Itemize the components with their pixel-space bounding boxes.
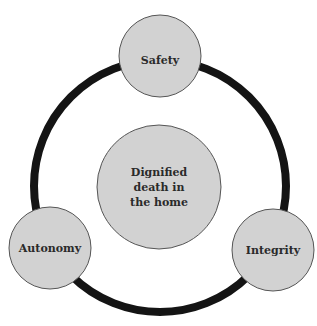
center-label-line-1: Dignified [131, 166, 188, 179]
node-autonomy-label: Autonomy [18, 242, 82, 255]
node-safety-label: Safety [141, 54, 180, 67]
node-autonomy: Autonomy [9, 207, 91, 289]
cycle-diagram: Dignified death in the home Safety Auton… [0, 0, 317, 326]
center-label-line-3: the home [130, 196, 188, 209]
node-safety: Safety [119, 15, 201, 97]
node-integrity-label: Integrity [246, 244, 301, 257]
center-label-line-2: death in [134, 181, 185, 194]
node-integrity: Integrity [232, 209, 314, 291]
center-node: Dignified death in the home [97, 125, 221, 249]
